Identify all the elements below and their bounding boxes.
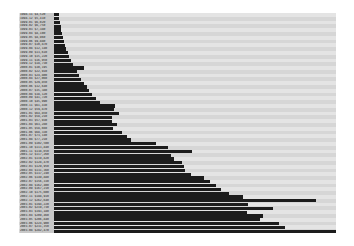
horizontal-bar-chart: 1998-11 $4,5201998-12 $5,4101999-01 $6,0…: [19, 13, 336, 233]
bar: [54, 230, 336, 233]
bar-row: 2003-08 $282,470: [19, 229, 336, 233]
bar-label: 2003-08 $282,470: [20, 229, 54, 233]
